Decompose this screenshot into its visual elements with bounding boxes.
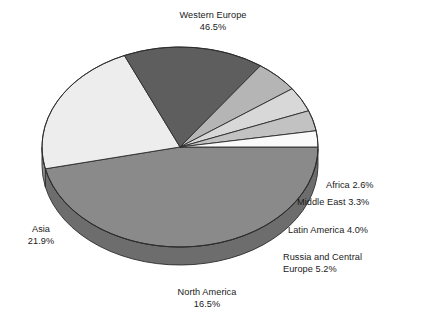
- slice-label-western-europe-value: 46.5%: [133, 22, 293, 34]
- slice-label-western-europe-name: Western Europe: [133, 10, 293, 22]
- slice-label-asia-name: Asia: [2, 224, 80, 236]
- pie-chart: Western Europe 46.5% Asia 21.9% North Am…: [0, 0, 425, 326]
- slice-label-middle-east: Middle East 3.3%: [297, 197, 422, 209]
- slice-label-asia-value: 21.9%: [2, 236, 80, 248]
- slice-label-russia-central-europe-name: Russia and Central: [283, 252, 423, 264]
- slice-label-latin-america-text: Latin America 4.0%: [288, 225, 422, 237]
- slice-label-russia-central-europe: Russia and Central Europe 5.2%: [283, 252, 423, 275]
- slice-label-russia-central-europe-value: Europe 5.2%: [283, 264, 423, 276]
- slice-label-africa: Africa 2.6%: [326, 180, 422, 192]
- slice-label-western-europe: Western Europe 46.5%: [133, 10, 293, 33]
- slice-label-asia: Asia 21.9%: [2, 224, 80, 247]
- slice-label-north-america-value: 16.5%: [132, 299, 282, 311]
- slice-label-africa-text: Africa 2.6%: [326, 180, 422, 192]
- pie-top-surface: [42, 47, 318, 247]
- slice-label-north-america: North America 16.5%: [132, 287, 282, 310]
- pie-chart-graphic: [0, 0, 425, 326]
- slice-label-latin-america: Latin America 4.0%: [288, 225, 422, 237]
- slice-label-middle-east-text: Middle East 3.3%: [297, 197, 422, 209]
- slice-label-north-america-name: North America: [132, 287, 282, 299]
